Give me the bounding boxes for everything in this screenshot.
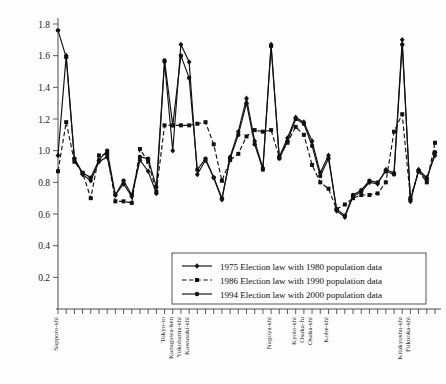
series-3-point-20: [220, 196, 224, 200]
x-axis-label-fukuoka-shi: Fukuoka-shi: [404, 317, 412, 352]
y-tick-label-0.2: 0.2: [38, 273, 50, 283]
y-tick-label-1.0: 1.0: [38, 146, 50, 156]
series-1-point-42: [400, 37, 405, 43]
series-3-point-26: [269, 44, 273, 48]
series-2-point-9: [130, 201, 134, 205]
series-2-point-18: [204, 120, 208, 124]
series-3-point-12: [154, 185, 158, 189]
y-axis: 0.20.40.60.81.01.21.41.61.8: [38, 18, 58, 309]
x-axis-label-kobe-shi: Kobe-shi: [322, 317, 330, 343]
chart-legend[interactable]: 1975 Election law with 1980 population d…: [172, 253, 426, 304]
series-3-point-16: [187, 76, 191, 80]
series-3-point-32: [318, 174, 322, 178]
y-tick-label-0.8: 0.8: [38, 178, 50, 188]
series-2-point-25: [261, 130, 265, 134]
series-2-point-39: [376, 191, 380, 195]
series-1-point-14: [170, 148, 175, 154]
series-3-point-22: [236, 133, 240, 137]
series-2-point-40: [384, 180, 388, 184]
chart-figure: 0.20.40.60.81.01.21.41.61.8 Sapporo-shiT…: [0, 0, 446, 384]
series-2-point-8: [122, 199, 126, 203]
series-2-point-26: [269, 128, 273, 132]
series-3-point-28: [285, 139, 289, 143]
x-axis-label-osaka-fu: Osaka-fu: [298, 317, 306, 343]
series-3-point-17: [195, 167, 199, 171]
series-3-point-40: [384, 169, 388, 173]
series-2-point-41: [392, 130, 396, 134]
x-axis: [56, 309, 441, 314]
series-2-point-17: [195, 122, 199, 126]
y-tick-label-0.6: 0.6: [38, 210, 50, 220]
series-3-point-19: [212, 175, 216, 179]
series-3-point-29: [293, 117, 297, 121]
x-axis-label-kyoto-shi: Kyoto-shi: [290, 317, 298, 345]
series-2-point-20: [220, 179, 224, 183]
series-1: [56, 37, 438, 220]
series-1-point-15: [179, 42, 184, 48]
series-3-point-30: [302, 122, 306, 126]
series-1-point-23: [244, 96, 249, 102]
series-2-point-33: [326, 187, 330, 191]
x-axis-label-sapporo-shi: Sapporo-shi: [52, 317, 60, 351]
series-2-point-42: [400, 112, 404, 116]
x-axis-label-nagoya-shi: Nagoya-shi: [265, 317, 273, 349]
series-2-point-38: [367, 193, 371, 197]
series-3-point-42: [400, 42, 404, 46]
line-chart-canvas: 0.20.40.60.81.01.21.41.61.8 Sapporo-shiT…: [0, 0, 446, 384]
series-2-point-46: [433, 141, 437, 145]
series-3-point-13: [162, 58, 166, 62]
series-3-point-25: [261, 167, 265, 171]
series-3-point-15: [179, 53, 183, 57]
series-3-point-11: [146, 156, 150, 160]
series-3-point-31: [310, 144, 314, 148]
x-axis-label-kanagawa-ken: Kanagawa-ken: [167, 317, 175, 359]
x-axis-labels: Sapporo-shiTokyo-toKanagawa-kenYokohama-…: [52, 317, 412, 360]
series-3-point-33: [326, 156, 330, 160]
series-3-point-10: [138, 155, 142, 159]
series-2-point-5: [97, 153, 101, 157]
series-2-point-32: [318, 180, 322, 184]
y-tick-label-1.4: 1.4: [38, 83, 50, 93]
series-2-point-24: [253, 128, 257, 132]
series-2-point-12: [154, 190, 158, 194]
series-3-point-21: [228, 156, 232, 160]
series-1-point-0: [56, 153, 61, 159]
series-2-point-19: [212, 142, 216, 146]
series-3-point-9: [130, 193, 134, 197]
series-3-point-4: [89, 175, 93, 179]
series-2-point-16: [187, 123, 191, 127]
series-3-point-36: [351, 193, 355, 197]
y-tick-label-0.4: 0.4: [38, 241, 50, 251]
series-3-point-5: [97, 158, 101, 162]
series-3-point-35: [343, 213, 347, 217]
series-3-point-18: [203, 156, 207, 160]
x-axis-label-kawasaki-shi: Kawasaki-shi: [183, 317, 191, 355]
series-2-point-0: [56, 169, 60, 173]
series-2-point-29: [294, 125, 298, 129]
series-3-point-27: [277, 156, 281, 160]
y-tick-label-1.6: 1.6: [38, 51, 50, 61]
series-2-point-15: [179, 123, 183, 127]
y-tick-label-1.2: 1.2: [38, 115, 50, 125]
legend-label-2: 1986 Election law with 1990 population d…: [220, 276, 382, 286]
series-2-point-4: [89, 196, 93, 200]
series-2-point-37: [359, 193, 363, 197]
series-1-point-16: [187, 59, 192, 65]
series-3-point-24: [252, 142, 256, 146]
series-3-point-46: [433, 150, 437, 154]
data-series-group: [56, 28, 438, 220]
x-axis-label-kitakyushu-shi: Kitakyushu-shi: [396, 317, 404, 360]
series-2-point-7: [113, 199, 117, 203]
series-3-point-44: [416, 169, 420, 173]
series-3-point-43: [408, 198, 412, 202]
series-3-point-39: [375, 180, 379, 184]
series-2-point-23: [245, 134, 249, 138]
series-2-point-22: [236, 152, 240, 156]
series-2-point-1: [64, 120, 68, 124]
series-3-point-45: [425, 177, 429, 181]
x-axis-label-yokohama-shi: Yokohama-shi: [175, 317, 183, 358]
series-3-point-37: [359, 188, 363, 192]
series-3-point-34: [334, 207, 338, 211]
series-3-point-38: [367, 179, 371, 183]
x-axis-label-tokyo-to: Tokyo-to: [159, 317, 167, 343]
